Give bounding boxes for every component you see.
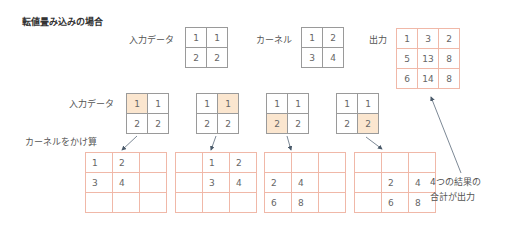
arrow-icon xyxy=(122,136,137,150)
arrow-icon xyxy=(431,97,461,173)
arrow-icon xyxy=(211,136,216,150)
arrow-icon xyxy=(366,137,382,149)
arrows-layer xyxy=(0,0,512,225)
arrow-icon xyxy=(287,136,291,150)
